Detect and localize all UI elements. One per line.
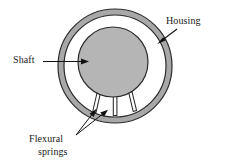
shaft-disc — [78, 27, 148, 97]
housing-label: Housing — [166, 15, 201, 26]
shaft-label: Shaft — [13, 54, 35, 65]
shaft-circle — [78, 27, 148, 97]
left-spring-leg — [93, 92, 101, 113]
flexural-springs-label-line1: Flexural — [29, 133, 63, 144]
right-spring-leg — [129, 92, 137, 112]
flexural-springs-label: Flexural springs — [29, 132, 68, 158]
shaft-leader — [43, 58, 89, 64]
flexural-springs-label-line2: springs — [29, 145, 68, 158]
